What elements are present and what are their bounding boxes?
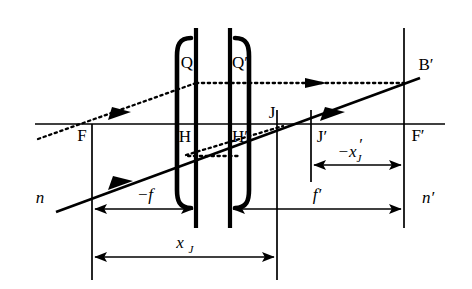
label-H-prime: H′ [232, 127, 248, 146]
diagram-canvas: F F′ H H′ J J′ Q Q′ B′ n n′ −f f′ −x J ′… [0, 0, 472, 289]
label-J: J [269, 103, 276, 122]
label-x-j-main: x [175, 233, 184, 252]
label-minus-f: −f [137, 185, 155, 204]
label-f-prime: f′ [313, 185, 322, 204]
label-n: n [36, 188, 45, 207]
label-n-prime: n′ [422, 188, 435, 207]
label-J-prime: J′ [317, 127, 327, 146]
dotted-incident-ray-arrowhead [108, 107, 131, 120]
label-x-j: x J [175, 233, 194, 255]
label-minus-x-j-prime-main: −x [337, 142, 356, 161]
label-minus-x-j-prime: −x J ′ [337, 135, 362, 164]
label-Q-prime: Q′ [232, 53, 248, 72]
optics-ray-diagram: F F′ H H′ J J′ Q Q′ B′ n n′ −f f′ −x J ′… [0, 0, 472, 289]
label-x-j-sub: J [189, 243, 195, 255]
label-H: H [179, 127, 191, 146]
label-B-prime: B′ [418, 55, 433, 74]
solid-ray-arrowhead-right [320, 107, 345, 121]
dotted-horizontal-ray-arrowhead [305, 78, 327, 88]
label-F-prime: F′ [411, 126, 424, 145]
label-F: F [77, 126, 86, 145]
label-Q: Q [181, 53, 193, 72]
label-minus-x-j-prime-prime: ′ [359, 135, 363, 154]
